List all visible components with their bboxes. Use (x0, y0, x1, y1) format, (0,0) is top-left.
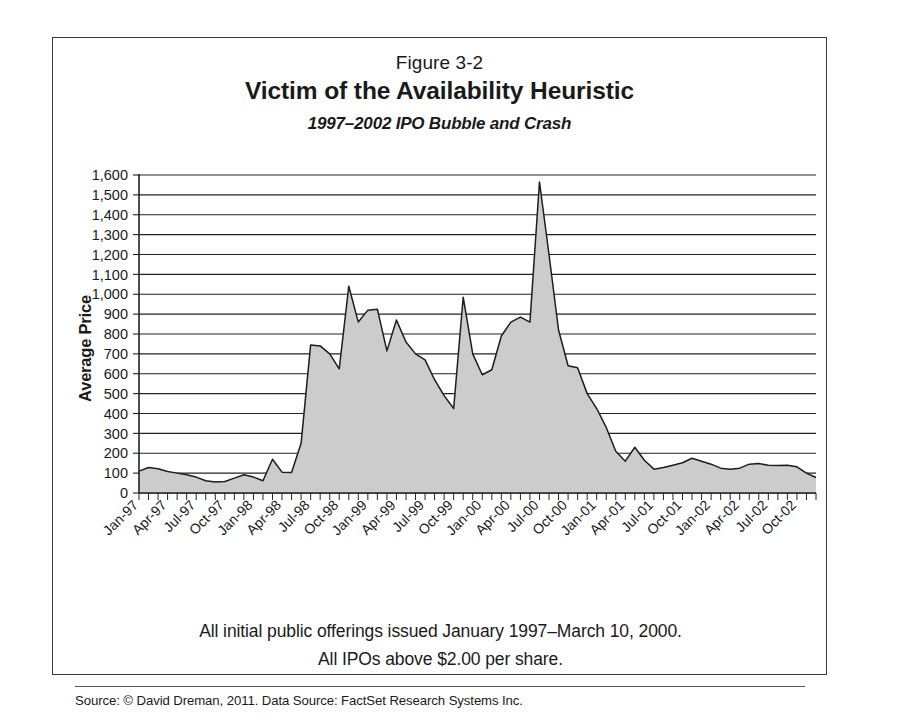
figure-notes: All initial public offerings issued Janu… (53, 621, 828, 670)
figure-title: Victim of the Availability Heuristic (53, 77, 826, 105)
y-tick-label: 1,300 (92, 227, 128, 243)
y-tick-label: 500 (104, 386, 128, 402)
note-line-1: All initial public offerings issued Janu… (53, 621, 828, 642)
y-tick-label: 700 (104, 346, 128, 362)
figure-subtitle: 1997–2002 IPO Bubble and Crash (53, 114, 826, 134)
y-tick-label: 900 (104, 306, 128, 322)
y-tick-label: 1,100 (92, 267, 128, 283)
area-series-fill (139, 182, 816, 493)
y-tick-label: 200 (104, 445, 128, 461)
y-tick-label: 1,600 (92, 167, 128, 183)
source-divider (75, 686, 805, 687)
y-tick-label: 400 (104, 406, 128, 422)
y-tick-label: 600 (104, 366, 128, 382)
y-tick-label: 300 (104, 426, 128, 442)
y-tick-label: 800 (104, 326, 128, 342)
y-tick-label: 1,200 (92, 247, 128, 263)
note-line-2: All IPOs above $2.00 per share. (53, 649, 828, 670)
y-tick-label: 1,000 (92, 286, 128, 302)
source-credit: Source: © David Dreman, 2011. Data Sourc… (75, 693, 805, 708)
y-tick-label: 1,500 (92, 187, 128, 203)
figure-label: Figure 3-2 (53, 52, 826, 74)
y-tick-label: 1,400 (92, 207, 128, 223)
area-chart: 01002003004005006007008009001,0001,1001,… (53, 153, 826, 608)
plot-area: Average Price 01002003004005006007008009… (53, 153, 826, 608)
figure-frame: Figure 3-2 Victim of the Availability He… (52, 37, 827, 675)
y-tick-label: 100 (104, 465, 128, 481)
y-axis-title: Average Price (76, 259, 95, 439)
